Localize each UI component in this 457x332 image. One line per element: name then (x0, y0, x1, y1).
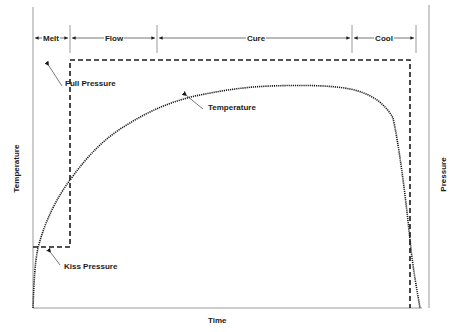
phase-label-melt: Melt (42, 34, 60, 43)
temperature-curve (33, 85, 420, 308)
full-pressure-label: Full Pressure (65, 79, 116, 88)
cure-cycle-diagram: Melt Flow Cure Cool Full Pressure Temper… (0, 0, 457, 332)
kiss-pressure-pointer (51, 253, 60, 265)
right-y-axis-label: Pressure (439, 157, 448, 191)
phase-label-flow: Flow (104, 34, 124, 43)
x-axis-label: Time (208, 316, 227, 325)
temperature-annotation-label: Temperature (208, 103, 256, 112)
left-y-axis-label: Temperature (12, 145, 21, 193)
kiss-pressure-label: Kiss Pressure (64, 262, 117, 271)
diagram-canvas (0, 0, 457, 332)
full-pressure-pointer (49, 66, 62, 86)
phase-label-cure: Cure (246, 34, 266, 43)
phase-label-cool: Cool (374, 34, 394, 43)
temperature-pointer (187, 96, 203, 109)
